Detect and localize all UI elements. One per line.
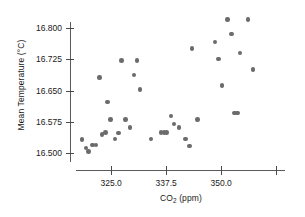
x-axis-title-subscript: 2 xyxy=(173,197,177,204)
data-point xyxy=(97,75,102,80)
data-point xyxy=(172,122,177,127)
data-point xyxy=(103,130,108,135)
x-axis-tick xyxy=(111,166,112,175)
data-point xyxy=(164,130,169,135)
y-axis-tick-label: 16.800 xyxy=(22,24,62,33)
y-axis-line xyxy=(70,22,71,162)
data-point xyxy=(159,130,164,135)
data-point xyxy=(128,125,133,130)
data-point xyxy=(235,111,240,116)
x-axis-tick-label: 350.0 xyxy=(201,178,241,188)
y-axis-tick-label: 16.725 xyxy=(22,55,62,64)
y-axis-tick-label-wrap: 16.725 xyxy=(20,55,62,64)
data-point xyxy=(113,137,118,142)
x-axis-tick xyxy=(221,166,222,175)
data-point xyxy=(84,146,89,151)
data-point xyxy=(187,144,192,149)
data-point xyxy=(177,125,182,130)
y-axis-tick-label-wrap: 16.500 xyxy=(20,149,62,158)
data-point xyxy=(162,130,167,135)
x-axis-title-post: (ppm) xyxy=(177,193,202,203)
data-point xyxy=(216,57,221,62)
data-point xyxy=(132,73,137,78)
data-point xyxy=(135,58,140,63)
x-axis-line xyxy=(76,170,285,171)
data-point xyxy=(220,83,225,88)
data-point xyxy=(86,149,91,154)
y-axis-tick xyxy=(66,122,74,123)
data-point xyxy=(90,143,95,148)
x-axis-tick-label: 325.0 xyxy=(91,178,131,188)
x-axis-tick xyxy=(166,166,167,175)
data-point xyxy=(213,40,218,45)
x-axis-tick xyxy=(276,166,277,175)
data-point xyxy=(246,17,251,22)
y-axis-tick-label: 16.650 xyxy=(22,87,62,96)
y-axis-tick xyxy=(66,59,74,60)
data-point xyxy=(105,100,110,105)
data-point xyxy=(94,143,99,148)
y-axis-tick xyxy=(66,91,74,92)
y-axis-tick xyxy=(66,153,74,154)
x-axis-title-pre: CO xyxy=(160,193,173,203)
data-point xyxy=(225,17,230,22)
data-point xyxy=(169,114,174,119)
x-axis-title: CO2 (ppm) xyxy=(76,193,286,203)
y-axis-tick-label: 16.500 xyxy=(22,149,62,158)
y-axis-tick-label-wrap: 16.575 xyxy=(20,118,62,127)
data-point xyxy=(149,137,154,142)
data-point xyxy=(238,51,243,56)
data-point xyxy=(100,132,105,137)
data-point xyxy=(190,46,195,51)
scatter-chart: Mean Temperature (°C) CO2 (ppm) 16.50016… xyxy=(0,0,305,217)
data-point xyxy=(232,111,237,116)
data-point xyxy=(80,137,85,142)
data-point xyxy=(119,58,124,63)
data-point xyxy=(123,117,128,122)
y-axis-tick-label-wrap: 16.650 xyxy=(20,87,62,96)
data-point xyxy=(251,67,256,72)
data-point xyxy=(116,131,121,136)
data-point xyxy=(138,87,143,92)
data-point xyxy=(183,137,188,142)
data-point xyxy=(229,32,234,37)
y-axis-tick-label: 16.575 xyxy=(22,118,62,127)
y-axis-tick-label-wrap: 16.800 xyxy=(20,24,62,33)
data-point xyxy=(108,117,113,122)
y-axis-tick xyxy=(66,28,74,29)
x-axis-tick-label: 337.5 xyxy=(146,178,186,188)
data-point xyxy=(195,117,200,122)
